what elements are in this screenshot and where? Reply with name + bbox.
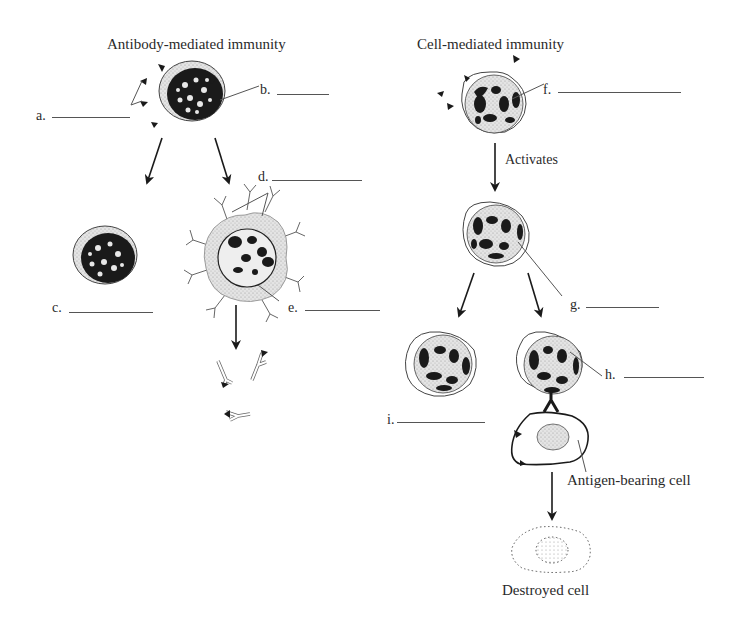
label-e: e.	[288, 300, 298, 316]
blank-h[interactable]	[624, 377, 704, 378]
blank-c[interactable]	[69, 312, 153, 313]
b-cell	[159, 61, 225, 121]
label-h: h.	[605, 367, 616, 383]
label-d: d.	[258, 169, 269, 185]
plasma-cell	[184, 184, 305, 322]
blank-g[interactable]	[586, 307, 659, 308]
destroyed-cell-label: Destroyed cell	[502, 582, 589, 598]
label-a-pointer	[131, 81, 142, 105]
arrow-to-cytotoxic-t-cell	[528, 273, 540, 313]
destroyed-cell	[512, 527, 591, 573]
label-c: c.	[52, 300, 62, 316]
label-d-pointer	[232, 193, 268, 216]
label-a: a.	[36, 108, 46, 124]
label-g: g.	[570, 297, 581, 313]
label-b-pointer	[220, 86, 259, 100]
blank-f[interactable]	[558, 92, 681, 93]
antigen-bearing-cell	[512, 412, 589, 466]
activates-label: Activates	[505, 152, 558, 168]
blank-b[interactable]	[277, 94, 329, 95]
memory-b-cell	[73, 226, 137, 284]
antigen-bearing-cell-label: Antigen-bearing cell	[567, 472, 691, 488]
arrow-to-plasma-cell	[215, 138, 228, 180]
memory-t-cell	[405, 332, 476, 396]
blank-e[interactable]	[305, 310, 380, 311]
activated-t-cell	[463, 202, 529, 266]
t-cell	[462, 72, 526, 133]
label-i: i.	[387, 412, 394, 428]
blank-d[interactable]	[272, 180, 362, 181]
blank-i[interactable]	[397, 422, 485, 423]
title-antibody-mediated: Antibody-mediated immunity	[107, 35, 286, 53]
label-b: b.	[260, 82, 271, 98]
label-f: f.	[543, 82, 551, 98]
title-cell-mediated: Cell-mediated immunity	[417, 35, 564, 53]
cytotoxic-t-cell	[516, 332, 582, 412]
blank-a[interactable]	[52, 117, 130, 118]
arrow-to-memory-t-cell	[460, 273, 474, 313]
label-g-pointer	[518, 242, 562, 296]
antibody-antigen-complex	[218, 350, 268, 420]
arrow-to-memory-cell	[148, 138, 162, 180]
